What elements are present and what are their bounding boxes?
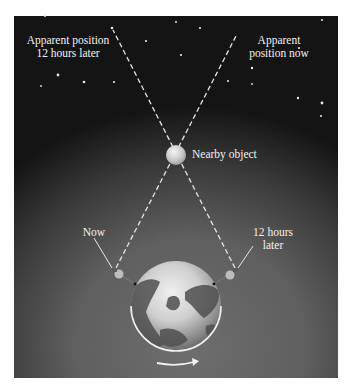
stars [40, 15, 323, 117]
label-12-hours-later: 12 hours later [245, 226, 301, 252]
observer-later [213, 268, 238, 285]
nearby-object-icon [166, 145, 186, 165]
label-apparent-now: Apparent position now [238, 34, 320, 60]
label-nearby-object: Nearby object [192, 148, 257, 161]
globe [131, 261, 221, 351]
observer-now [112, 268, 136, 285]
rotation-arrow-icon [157, 358, 199, 366]
label-apparent-later: Apparent position 12 hours later [22, 34, 114, 60]
label-now: Now [78, 226, 110, 239]
